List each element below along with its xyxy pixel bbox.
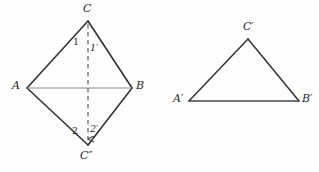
geometry-figure: C A B C″ 1 1′ 2 2′ C′ A′ B′ <box>0 0 319 172</box>
edge-A-C-double-prime <box>27 88 88 145</box>
edge-C-double-prime-B <box>88 88 132 145</box>
vertex-label-B-prime: B′ <box>302 93 313 104</box>
edge-C-B <box>88 21 132 88</box>
vertex-label-C-prime: C′ <box>243 21 254 32</box>
angle-label-1-prime: 1′ <box>90 43 98 53</box>
angle-label-1: 1 <box>73 37 79 47</box>
vertex-label-B: B <box>136 80 144 91</box>
vertex-label-C: C <box>83 3 91 14</box>
vertex-label-C-double-prime: C″ <box>80 150 93 161</box>
vertex-label-A-prime: A′ <box>173 93 183 104</box>
angle-label-2: 2 <box>72 126 78 136</box>
vertex-label-A: A <box>12 80 20 91</box>
angle-label-2-prime: 2′ <box>90 124 98 134</box>
left-kite-group <box>27 21 132 145</box>
edge-A-prime-C-prime <box>189 39 248 101</box>
figure-canvas <box>0 0 319 172</box>
right-triangle-group <box>189 39 299 101</box>
edge-A-C <box>27 21 88 88</box>
edge-C-prime-B-prime <box>248 39 299 101</box>
